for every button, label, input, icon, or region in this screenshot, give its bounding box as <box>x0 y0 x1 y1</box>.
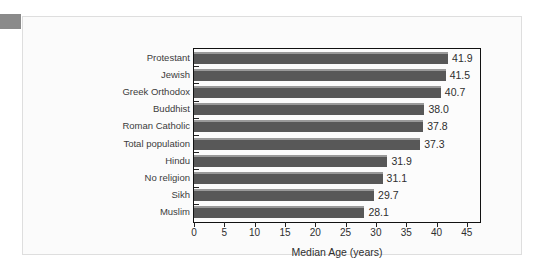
y-tick <box>194 187 199 188</box>
category-label: Roman Catholic <box>122 122 190 132</box>
category-label: Protestant <box>147 53 190 63</box>
x-tick-label: 15 <box>279 228 290 238</box>
category-label: Hindu <box>165 156 190 166</box>
plot-area: Protestant41.9Jewish41.5Greek Orthodox40… <box>193 48 481 223</box>
y-tick <box>194 118 199 119</box>
bar <box>194 172 383 184</box>
x-tick-label: 30 <box>370 228 381 238</box>
bar <box>194 52 448 64</box>
category-label: Greek Orthodox <box>122 87 190 97</box>
category-label: Jewish <box>161 70 190 80</box>
x-tick-label: 25 <box>340 228 351 238</box>
value-label: 31.1 <box>387 173 407 184</box>
bar-row: Sikh29.7 <box>194 189 480 201</box>
category-label: Sikh <box>172 190 190 200</box>
chart-panel: Protestant41.9Jewish41.5Greek Orthodox40… <box>22 16 522 255</box>
bar <box>194 138 420 150</box>
screenshot-root: Protestant41.9Jewish41.5Greek Orthodox40… <box>0 0 543 267</box>
category-label: Buddhist <box>153 104 190 114</box>
bar-row: Roman Catholic37.8 <box>194 120 480 132</box>
bar-row: Protestant41.9 <box>194 52 480 64</box>
y-tick <box>194 83 199 84</box>
x-tick-label: 45 <box>461 228 472 238</box>
value-label: 37.3 <box>424 138 444 149</box>
category-label: Total population <box>123 139 190 149</box>
bar <box>194 86 441 98</box>
bar-row: Hindu31.9 <box>194 155 480 167</box>
bar-highlight <box>194 103 424 105</box>
bar-row: Greek Orthodox40.7 <box>194 86 480 98</box>
x-axis-title: Median Age (years) <box>193 246 481 258</box>
value-label: 29.7 <box>378 190 398 201</box>
bar-highlight <box>194 52 448 54</box>
value-label: 37.8 <box>427 121 447 132</box>
bar <box>194 120 423 132</box>
x-tick-label: 35 <box>401 228 412 238</box>
x-tick-label: 5 <box>222 228 228 238</box>
bar-highlight <box>194 86 441 88</box>
bar <box>194 206 364 218</box>
bar-row: Total population37.3 <box>194 138 480 150</box>
bar <box>194 69 446 81</box>
x-tick-label: 40 <box>431 228 442 238</box>
y-tick <box>194 169 199 170</box>
y-tick <box>194 101 199 102</box>
category-label: No religion <box>145 173 190 183</box>
bar <box>194 155 387 167</box>
bar-row: Muslim28.1 <box>194 206 480 218</box>
bar-highlight <box>194 189 374 191</box>
bar-highlight <box>194 138 420 140</box>
bar-highlight <box>194 206 364 208</box>
value-label: 31.9 <box>391 156 411 167</box>
value-label: 41.9 <box>452 52 472 63</box>
y-tick <box>194 204 199 205</box>
value-label: 38.0 <box>428 104 448 115</box>
bar-highlight <box>194 120 423 122</box>
bar-rows: Protestant41.9Jewish41.5Greek Orthodox40… <box>194 49 480 222</box>
value-label: 28.1 <box>368 207 388 218</box>
bar <box>194 189 374 201</box>
bar-row: No religion31.1 <box>194 172 480 184</box>
y-tick <box>194 66 199 67</box>
bar-highlight <box>194 155 387 157</box>
bar-row: Buddhist38.0 <box>194 103 480 115</box>
category-label: Muslim <box>160 208 190 218</box>
y-tick <box>194 152 199 153</box>
bar-highlight <box>194 69 446 71</box>
value-label: 40.7 <box>445 87 465 98</box>
page-edge-tab <box>0 14 21 29</box>
bar-row: Jewish41.5 <box>194 69 480 81</box>
x-tick-label: 10 <box>249 228 260 238</box>
y-tick <box>194 135 199 136</box>
x-tick-label: 20 <box>310 228 321 238</box>
value-label: 41.5 <box>450 70 470 81</box>
bar <box>194 103 424 115</box>
x-tick-label: 0 <box>191 228 197 238</box>
bar-highlight <box>194 172 383 174</box>
